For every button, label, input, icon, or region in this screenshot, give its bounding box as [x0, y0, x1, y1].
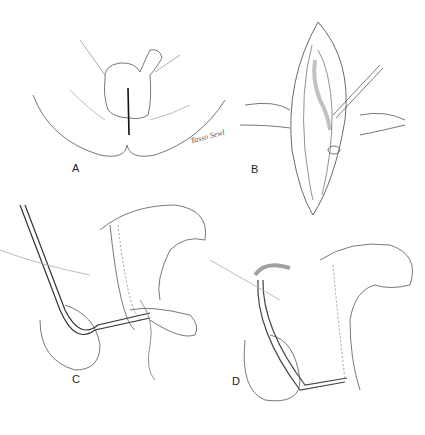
- panel-label-b: B: [251, 163, 258, 175]
- panel-b-drawing: [240, 22, 405, 215]
- panel-label-c: C: [72, 373, 80, 385]
- panel-c-drawing: [0, 205, 206, 380]
- panel-label-d: D: [232, 375, 240, 387]
- medical-illustration: A B C D Tasso Sewl: [0, 0, 425, 435]
- illustration-drawing: [0, 0, 425, 435]
- panel-d-drawing: [210, 244, 413, 401]
- panel-label-a: A: [72, 162, 79, 174]
